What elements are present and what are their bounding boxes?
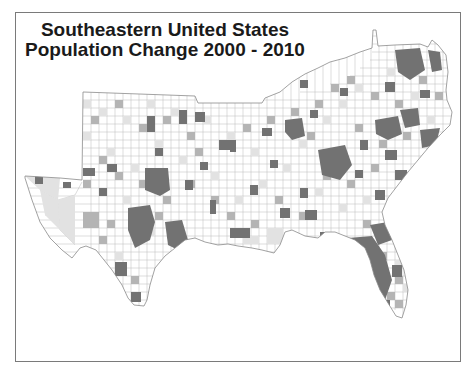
county-fills	[0, 0, 475, 376]
choropleth-map	[0, 0, 475, 376]
